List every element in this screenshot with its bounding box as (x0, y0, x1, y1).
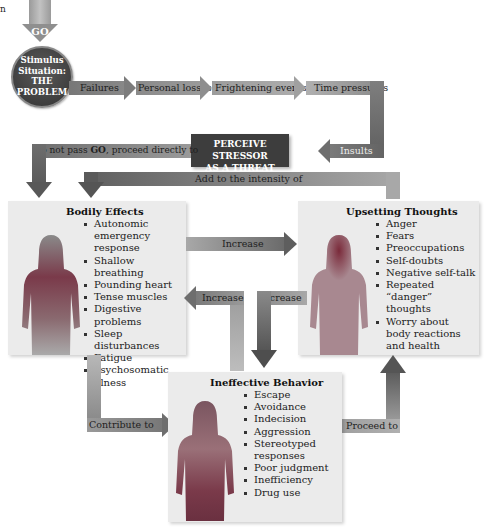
intensity-up-shaft (386, 172, 400, 199)
list-item: Digestive problems (84, 303, 184, 327)
bypass-down-shaft (32, 144, 46, 184)
arrow-up-icon (380, 355, 406, 373)
upsetting-thoughts-list: Anger Fears Preoccupations Self-doubts N… (376, 218, 476, 352)
person-figure-icon (176, 401, 234, 521)
stressor-failures: Failures (80, 82, 119, 93)
person-figure-icon (310, 235, 368, 355)
bypass-go: GO (90, 145, 106, 155)
contribute-shaft (87, 355, 101, 420)
stimulus-circle: Stimulus Situation: THE PROBLEM (11, 46, 73, 108)
list-item: Indecision (244, 413, 340, 425)
arrow-left-icon (184, 286, 196, 310)
arrow-right-icon (124, 76, 136, 100)
arrow-down-icon (251, 350, 277, 368)
person-figure-icon (22, 235, 80, 355)
list-item: Fears (376, 230, 476, 242)
go-arrow-shaft (29, 0, 51, 26)
proceed-label: Proceed to (346, 420, 398, 431)
list-item: Pounding heart (84, 279, 184, 291)
corner-mark: n (0, 4, 6, 14)
bodily-effects-title: Bodily Effects (66, 206, 144, 217)
arrow-down-icon (78, 182, 104, 198)
upsetting-thoughts-title: Upsetting Thoughts (346, 206, 458, 217)
list-item: Avoidance (244, 401, 340, 413)
arrow-down-icon (26, 182, 52, 198)
bypass-label: Do not pass GO, proceed directly to (34, 145, 198, 155)
list-item: Stereotyped responses (244, 438, 340, 462)
ineffective-behavior-list: Escape Avoidance Indecision Aggression S… (244, 389, 340, 499)
stressor-frightening-events: Frightening events (215, 82, 307, 93)
arrow-left-icon (318, 139, 330, 163)
list-item: Anger (376, 218, 476, 230)
ineffective-behavior-title: Ineffective Behavior (210, 377, 323, 388)
circle-line-3: THE (13, 76, 71, 87)
circle-line-2: Situation: (13, 66, 71, 77)
list-item: Tense muscles (84, 291, 184, 303)
list-item: Worry about body reactions and health (376, 316, 476, 353)
list-item: Sleep disturbances (84, 328, 184, 352)
list-item: Self-doubts (376, 255, 476, 267)
list-item: Autonomic emergency response (84, 218, 184, 255)
increase-down-shaft (257, 291, 271, 351)
list-item: Shallow breathing (84, 255, 184, 279)
list-item: Inefficiency (244, 474, 340, 486)
bypass-suffix: , proceed directly to (106, 145, 198, 155)
list-item: Negative self-talk (376, 267, 476, 279)
list-item: Aggression (244, 426, 340, 438)
list-item: Poor judgment (244, 462, 340, 474)
list-item: Repeated “danger” thoughts (376, 279, 476, 316)
increase-left-label: Increase (202, 292, 244, 303)
circle-line-4: PROBLEM (13, 87, 71, 98)
go-label: GO (26, 26, 54, 37)
arrow-right-icon (200, 76, 212, 100)
list-item: Escape (244, 389, 340, 401)
circle-line-1: Stimulus (13, 55, 71, 66)
arrow-right-icon (284, 232, 297, 256)
list-item: Drug use (244, 487, 340, 499)
threat-line-1: PERCEIVE STRESSOR (191, 138, 289, 162)
arrow-right-icon (294, 76, 306, 100)
stressor-insults: Insults (340, 145, 373, 156)
increase-right-label: Increase (222, 238, 264, 249)
perceive-threat-box: PERCEIVE STRESSOR AS A THREAT (191, 134, 289, 167)
intensity-label: Add to the intensity of (195, 173, 302, 184)
list-item: Preoccupations (376, 242, 476, 254)
contribute-label: Contribute to (89, 419, 154, 430)
